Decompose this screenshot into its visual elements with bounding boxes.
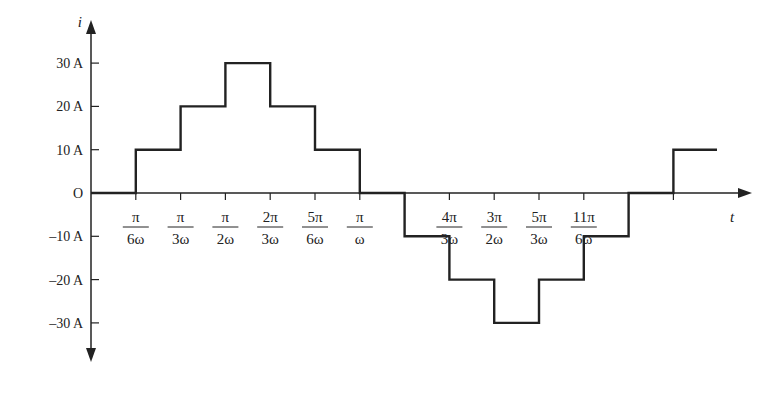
- x-tick-numerator: 11π: [573, 209, 595, 225]
- x-axis-arrow-icon: [738, 188, 752, 198]
- x-tick-numerator: 5π: [307, 209, 323, 225]
- y-tick-label: 10 A: [56, 143, 84, 158]
- x-tick-denominator: 2ω: [486, 231, 504, 247]
- y-axis-arrow-up-icon: [86, 20, 96, 34]
- x-tick-denominator: ω: [355, 231, 365, 247]
- x-tick-numerator: π: [132, 209, 140, 225]
- y-tick-label: 30 A: [56, 56, 84, 71]
- x-tick-numerator: 5π: [531, 209, 547, 225]
- chart-canvas: it30 A20 A10 AO–10 A–20 A–30 Aπ6ωπ3ωπ2ω2…: [0, 0, 776, 393]
- y-axis-arrow-down-icon: [86, 348, 96, 362]
- x-tick-denominator: 6ω: [127, 231, 145, 247]
- x-tick-numerator: 4π: [442, 209, 458, 225]
- y-tick-label: 20 A: [56, 99, 84, 114]
- y-tick-label: –30 A: [48, 316, 84, 331]
- x-tick-numerator: π: [177, 209, 185, 225]
- x-tick-denominator: 3ω: [530, 231, 548, 247]
- x-tick-numerator: π: [356, 209, 364, 225]
- y-tick-label: –20 A: [48, 273, 84, 288]
- x-tick-numerator: 3π: [487, 209, 503, 225]
- x-tick-denominator: 3ω: [172, 231, 190, 247]
- x-tick-denominator: 2ω: [217, 231, 235, 247]
- x-axis-label: t: [730, 209, 735, 225]
- y-axis-label: i: [78, 14, 82, 30]
- x-tick-denominator: 6ω: [306, 231, 324, 247]
- x-tick-numerator: π: [222, 209, 230, 225]
- x-tick-denominator: 3ω: [262, 231, 280, 247]
- y-tick-label: O: [73, 186, 83, 201]
- step-current-chart: it30 A20 A10 AO–10 A–20 A–30 Aπ6ωπ3ωπ2ω2…: [0, 0, 776, 393]
- y-tick-label: –10 A: [48, 229, 84, 244]
- x-tick-numerator: 2π: [263, 209, 279, 225]
